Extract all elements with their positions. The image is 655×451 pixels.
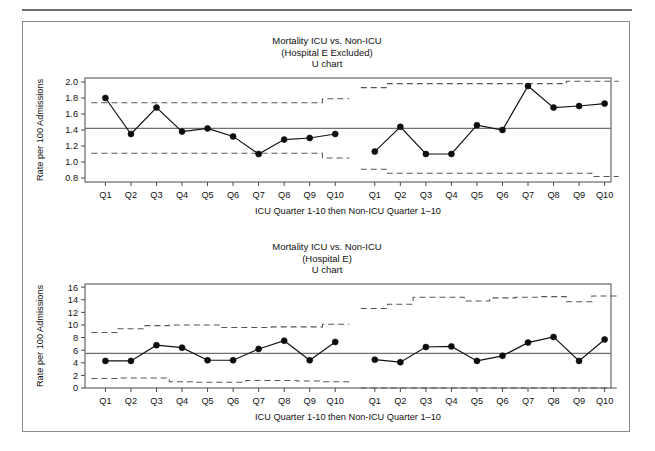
- x-tick-label: Q8: [547, 396, 559, 406]
- x-tick-label: Q6: [227, 190, 239, 200]
- y-tick-label: 0: [73, 383, 78, 393]
- x-tick-label: Q2: [394, 190, 406, 200]
- x-tick-label: Q9: [304, 396, 316, 406]
- y-tick-label: 12: [68, 308, 78, 318]
- x-tick-label: Q8: [547, 190, 559, 200]
- data-point: [307, 357, 313, 363]
- chart-title-line2: (Hospital E): [302, 253, 352, 264]
- data-point: [102, 95, 108, 101]
- chart-title-line2: (Hospital E Excluded): [281, 47, 372, 58]
- data-point: [397, 359, 403, 365]
- x-tick-label: Q9: [304, 190, 316, 200]
- data-line-icu: [105, 98, 335, 154]
- figure-container: Mortality ICU vs. Non-ICU(Hospital E Exc…: [22, 21, 630, 432]
- x-tick-label: Q10: [327, 190, 344, 200]
- x-tick-label: Q5: [471, 190, 483, 200]
- data-point: [154, 342, 160, 348]
- x-tick-label: Q4: [176, 190, 188, 200]
- data-point: [423, 151, 429, 157]
- data-point: [332, 131, 338, 137]
- data-line-non-icu: [375, 86, 605, 154]
- x-tick-label: Q10: [596, 190, 613, 200]
- chart-title-line1: Mortality ICU vs. Non-ICU: [272, 241, 381, 252]
- x-tick-label: Q1: [369, 190, 381, 200]
- x-tick-label: Q1: [369, 396, 381, 406]
- upper-control-limit-line: [361, 296, 619, 309]
- x-tick-label: Q3: [420, 396, 432, 406]
- x-tick-label: Q1: [99, 190, 111, 200]
- data-point: [230, 357, 236, 363]
- x-axis-title: ICU Quarter 1-10 then Non-ICU Quarter 1–…: [255, 412, 441, 422]
- y-axis-title: Rate per 100 Admissions: [35, 285, 45, 388]
- data-point: [256, 346, 262, 352]
- data-point: [102, 358, 108, 364]
- x-tick-label: Q2: [394, 396, 406, 406]
- data-point: [448, 343, 454, 349]
- x-tick-label: Q5: [201, 190, 213, 200]
- x-tick-label: Q6: [496, 190, 508, 200]
- x-tick-label: Q10: [327, 396, 344, 406]
- data-point: [576, 103, 582, 109]
- data-point: [525, 340, 531, 346]
- y-tick-label: 0.8: [65, 173, 78, 183]
- x-tick-label: Q7: [522, 190, 534, 200]
- x-tick-label: Q3: [150, 396, 162, 406]
- data-point: [423, 344, 429, 350]
- data-point: [179, 129, 185, 135]
- x-tick-label: Q2: [125, 190, 137, 200]
- y-tick-label: 1.4: [65, 125, 78, 135]
- x-tick-label: Q8: [278, 190, 290, 200]
- x-tick-label: Q3: [420, 190, 432, 200]
- y-tick-label: 1.0: [65, 157, 78, 167]
- x-tick-label: Q3: [150, 190, 162, 200]
- y-tick-label: 10: [68, 320, 78, 330]
- data-point: [372, 149, 378, 155]
- y-tick-label: 4: [73, 358, 78, 368]
- data-point: [576, 358, 582, 364]
- data-point: [448, 151, 454, 157]
- y-tick-label: 1.2: [65, 141, 78, 151]
- x-axis-title: ICU Quarter 1-10 then Non-ICU Quarter 1–…: [255, 206, 441, 216]
- y-tick-label: 6: [73, 346, 78, 356]
- chart-title-line1: Mortality ICU vs. Non-ICU: [272, 35, 381, 46]
- upper-control-limit-line: [91, 99, 349, 103]
- x-tick-label: Q4: [445, 396, 457, 406]
- y-tick-label: 2.0: [65, 77, 78, 87]
- x-tick-label: Q7: [522, 396, 534, 406]
- data-point: [474, 358, 480, 364]
- data-line-icu: [105, 341, 335, 361]
- y-tick-label: 14: [68, 295, 78, 305]
- chart-title-line3: U chart: [312, 58, 343, 69]
- x-tick-label: Q4: [176, 396, 188, 406]
- data-point: [179, 345, 185, 351]
- x-tick-label: Q6: [496, 396, 508, 406]
- y-tick-label: 16: [68, 283, 78, 293]
- x-tick-label: Q10: [596, 396, 613, 406]
- y-axis-title: Rate per 100 Admissions: [35, 79, 45, 182]
- data-point: [551, 105, 557, 111]
- data-point: [281, 338, 287, 344]
- x-tick-label: Q1: [99, 396, 111, 406]
- upper-control-limit-line: [91, 324, 349, 332]
- data-point: [397, 124, 403, 130]
- data-line-non-icu: [375, 337, 605, 362]
- chart-svg-panel-bottom: Mortality ICU vs. Non-ICU(Hospital E)U c…: [23, 228, 631, 433]
- data-point: [256, 151, 262, 157]
- chart-panel-top: Mortality ICU vs. Non-ICU(Hospital E Exc…: [23, 22, 631, 228]
- x-tick-label: Q7: [252, 190, 264, 200]
- top-rule: [22, 9, 632, 11]
- data-point: [230, 133, 236, 139]
- y-tick-label: 2: [73, 371, 78, 381]
- upper-control-limit-line: [361, 81, 619, 87]
- x-tick-label: Q8: [278, 396, 290, 406]
- data-point: [551, 334, 557, 340]
- data-point: [307, 135, 313, 141]
- data-point: [525, 83, 531, 89]
- y-tick-label: 1.8: [65, 93, 78, 103]
- data-point: [332, 339, 338, 345]
- lower-control-limit-line: [91, 378, 349, 382]
- x-tick-label: Q9: [573, 190, 585, 200]
- data-point: [128, 131, 134, 137]
- data-point: [205, 357, 211, 363]
- data-point: [281, 137, 287, 143]
